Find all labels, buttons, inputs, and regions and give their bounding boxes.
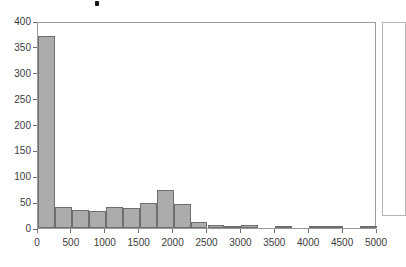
histogram-bar <box>72 210 89 228</box>
x-tick-label: 4000 <box>297 236 319 249</box>
x-tick-mark <box>308 229 309 233</box>
x-tick-label: 3000 <box>229 236 251 249</box>
plot-panel <box>37 22 376 229</box>
x-tick-mark <box>172 229 173 233</box>
histogram-bar <box>191 222 208 228</box>
x-tick-mark <box>240 229 241 233</box>
histogram-bar <box>224 226 241 228</box>
histogram-bar <box>275 226 292 228</box>
histogram-bar <box>106 207 123 228</box>
histogram-bar <box>38 36 55 229</box>
x-tick-mark <box>274 229 275 233</box>
histogram-bar <box>157 190 174 228</box>
x-tick-mark <box>70 229 71 233</box>
x-tick-mark <box>342 229 343 233</box>
x-tick-label: 4500 <box>331 236 353 249</box>
x-tick-mark <box>206 229 207 233</box>
x-tick-label: 2500 <box>195 236 217 249</box>
x-tick-label: 5000 <box>365 236 387 249</box>
x-tick-label: 500 <box>63 236 80 249</box>
x-tick-label: 0 <box>34 236 40 249</box>
y-tick-label: 150 <box>14 144 31 157</box>
y-tick-label: 100 <box>14 170 31 183</box>
histogram-bar <box>326 226 343 228</box>
histogram-bar <box>360 226 377 228</box>
y-tick-label: 350 <box>14 41 31 54</box>
x-axis: 0500100015002000250030003500400045005000 <box>37 229 376 259</box>
y-tick-label: 0 <box>25 222 31 235</box>
y-tick-label: 400 <box>14 15 31 28</box>
y-tick-label: 250 <box>14 93 31 106</box>
y-tick-label: 200 <box>14 119 31 132</box>
x-tick-mark <box>138 229 139 233</box>
x-tick-mark <box>104 229 105 233</box>
y-tick-label: 300 <box>14 67 31 80</box>
histogram-bar <box>174 204 191 228</box>
histogram-bar <box>140 203 157 228</box>
histogram-bar <box>55 207 72 228</box>
histogram-bar <box>208 225 225 228</box>
x-tick-mark <box>37 229 38 233</box>
x-tick-label: 2000 <box>161 236 183 249</box>
x-tick-label: 3500 <box>263 236 285 249</box>
y-tick-label: 50 <box>20 196 31 209</box>
histogram-bar <box>241 225 258 228</box>
plot-area <box>38 23 375 228</box>
x-tick-label: 1500 <box>128 236 150 249</box>
histogram-bar <box>123 208 140 228</box>
histogram-bar <box>89 211 106 228</box>
histogram-bar <box>309 226 326 228</box>
title-artifact-dot <box>95 1 99 6</box>
x-tick-mark <box>376 229 377 233</box>
legend-box <box>382 22 406 216</box>
x-tick-label: 1000 <box>94 236 116 249</box>
y-axis: 050100150200250300350400 <box>0 22 37 229</box>
